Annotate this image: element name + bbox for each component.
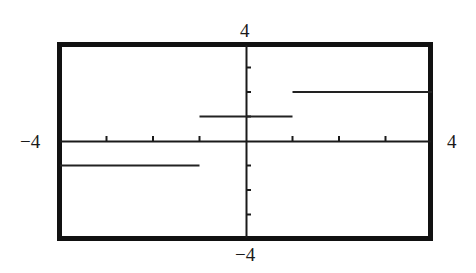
x-min-label: −4 [20, 131, 41, 152]
y-min-label: −4 [235, 244, 256, 265]
graph-window: −4 4 4 −4 [0, 0, 476, 273]
x-max-label: 4 [447, 131, 457, 152]
axes [60, 45, 431, 238]
y-max-label: 4 [240, 20, 250, 41]
